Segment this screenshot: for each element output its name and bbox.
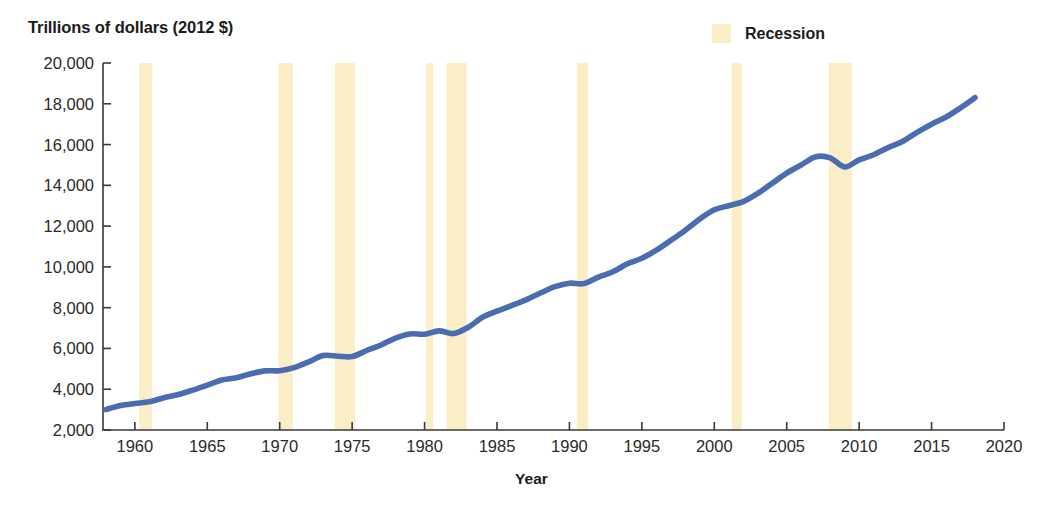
y-axis-tick-label: 14,000 bbox=[44, 176, 94, 195]
recession-band bbox=[577, 63, 589, 430]
chart-figure: Trillions of dollars (2012 $) Recession … bbox=[0, 0, 1045, 510]
x-axis-tick-label: 2005 bbox=[768, 437, 805, 456]
x-axis-tick-label: 1990 bbox=[551, 437, 588, 456]
recession-band bbox=[335, 63, 355, 430]
y-axis-tick-label: 8,000 bbox=[53, 298, 94, 317]
x-axis-tick-label: 1995 bbox=[624, 437, 661, 456]
recession-band bbox=[278, 63, 292, 430]
recession-band bbox=[732, 63, 742, 430]
x-axis-tick-label: 1980 bbox=[406, 437, 443, 456]
y-axis-tick-label: 18,000 bbox=[44, 94, 94, 113]
y-axis-tick-label: 12,000 bbox=[44, 217, 94, 236]
y-axis-tick-label: 6,000 bbox=[53, 339, 94, 358]
plot-area: 20,00018,00016,00014,00012,00010,0008,00… bbox=[0, 0, 1045, 510]
recession-band bbox=[446, 63, 466, 430]
recession-band bbox=[139, 63, 152, 430]
y-axis-tick-label: 16,000 bbox=[44, 135, 94, 154]
recession-band bbox=[829, 63, 852, 430]
x-axis-tick-label: 1970 bbox=[261, 437, 298, 456]
x-axis-tick-label: 2010 bbox=[841, 437, 878, 456]
x-axis-title-text: Year bbox=[515, 470, 548, 487]
x-axis-tick-label: 2020 bbox=[986, 437, 1023, 456]
x-axis-tick-label: 1975 bbox=[334, 437, 371, 456]
x-axis-tick-label: 2015 bbox=[913, 437, 950, 456]
x-axis-tick-label: 2000 bbox=[696, 437, 733, 456]
y-axis-tick-label: 10,000 bbox=[44, 257, 94, 276]
recession-band bbox=[426, 63, 433, 430]
y-axis-tick-label: 4,000 bbox=[53, 380, 94, 399]
x-axis-tick-label: 1965 bbox=[189, 437, 226, 456]
x-axis-tick-label: 1985 bbox=[479, 437, 516, 456]
x-axis-title: Year bbox=[0, 470, 1045, 488]
plot-svg bbox=[0, 0, 1045, 510]
y-axis-tick-labels: 20,00018,00016,00014,00012,00010,0008,00… bbox=[14, 0, 94, 510]
y-axis-tick-label: 2,000 bbox=[53, 421, 94, 440]
x-axis-tick-label: 1960 bbox=[117, 437, 154, 456]
y-axis-tick-label: 20,000 bbox=[44, 54, 94, 73]
